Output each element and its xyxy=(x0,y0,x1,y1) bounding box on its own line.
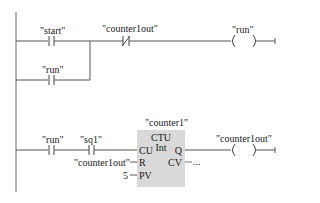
label-counter1-instance: "counter1" xyxy=(145,117,188,128)
contact-counter1out-nc[interactable] xyxy=(122,36,130,46)
pin-cv: CV xyxy=(168,157,182,168)
coil-run[interactable] xyxy=(233,35,256,47)
label-r-input: "counter1out" xyxy=(74,157,130,168)
label-pv-input: 5 xyxy=(123,170,128,181)
contact-sq1-no[interactable] xyxy=(89,145,94,155)
pin-r: R xyxy=(139,157,146,168)
label-counter1out-nc: "counter1out" xyxy=(102,23,158,34)
contact-start-no[interactable] xyxy=(49,36,54,46)
label-run: "run" xyxy=(42,134,64,145)
pin-q: Q xyxy=(175,145,182,156)
label-coil-counter1out: "counter1out" xyxy=(216,133,272,144)
label-start: "start" xyxy=(40,25,65,36)
ctu-block[interactable]: CTU Int CU R PV Q CV xyxy=(137,130,185,187)
contact-run-no[interactable] xyxy=(49,145,54,155)
pin-pv: PV xyxy=(139,170,152,181)
label-coil-run: "run" xyxy=(232,24,254,35)
contact-run-no-parallel[interactable] xyxy=(49,75,54,85)
label-run-parallel: "run" xyxy=(42,64,64,75)
coil-counter1out[interactable] xyxy=(233,144,256,156)
label-cv-output: ... xyxy=(193,156,201,167)
pin-cu: CU xyxy=(139,145,153,156)
label-sq1: "sq1" xyxy=(80,134,102,145)
